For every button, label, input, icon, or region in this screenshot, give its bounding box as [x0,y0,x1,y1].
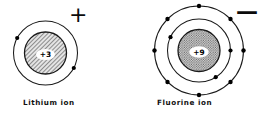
lithium-charge-sign: + [69,4,87,26]
fluorine-outer-electron-6 [165,80,169,84]
fluorine-outer-electron-1 [197,4,201,8]
fluorine-nucleus-charge-label: +9 [193,48,204,57]
fluorine-outer-electron-4 [228,80,232,84]
fluorine-outer-electron-8 [165,17,169,21]
lithium-electron-2 [72,66,76,70]
fluorine-outer-electron-3 [241,48,245,52]
fluorine-outer-electron-7 [152,48,156,52]
fluorine-outer-electron-2 [228,17,232,21]
fluorine-charge-sign: — [236,1,258,23]
fluorine-caption: Fluorine ion [157,98,212,107]
fluorine-outer-electron-5 [197,93,201,97]
fluorine-inner-electron-1 [168,35,172,39]
lithium-nucleus-charge-label: +3 [40,50,51,59]
fluorine-inner-electron-3 [214,75,218,79]
lithium-caption: Lithium ion [23,98,75,107]
lithium-electron-1 [15,36,19,40]
fluorine-inner-electron-2 [228,48,232,52]
